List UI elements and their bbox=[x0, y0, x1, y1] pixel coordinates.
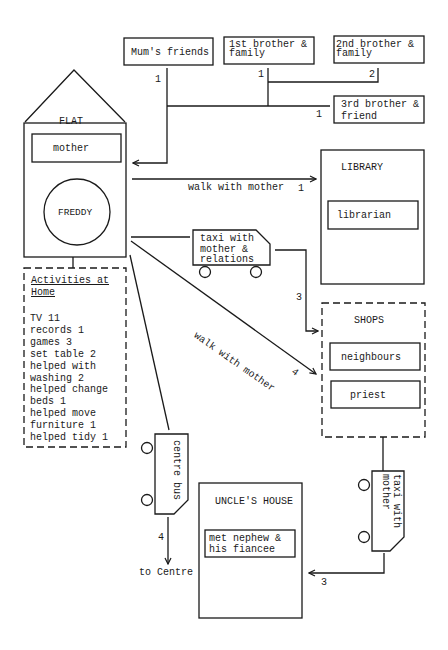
brother3-label: 3rd brother & friend bbox=[341, 99, 419, 123]
taxi1-label: taxi with mother & relations bbox=[200, 234, 254, 266]
nephew-label: met nephew & his fiancee bbox=[209, 533, 281, 555]
activity-item: helped change bbox=[30, 384, 124, 396]
bus-label: centre bus bbox=[171, 440, 182, 500]
shops-title: SHOPS bbox=[354, 315, 384, 326]
activities-title-2: Home bbox=[31, 287, 55, 298]
mums-friends-count: 1 bbox=[155, 74, 161, 85]
activity-item: helped with bbox=[30, 361, 124, 373]
activity-item: records 1 bbox=[30, 325, 124, 337]
flat-title: FLAT bbox=[59, 116, 83, 127]
freddy-label: FREDDY bbox=[58, 207, 92, 218]
uncles-house-title: UNCLE'S HOUSE bbox=[215, 496, 293, 507]
brother1-count: 1 bbox=[258, 69, 264, 80]
neighbours-label: neighbours bbox=[341, 352, 401, 363]
activity-item: beds 1 bbox=[30, 396, 124, 408]
activity-item: furniture 1 bbox=[30, 420, 124, 432]
library-title: LIBRARY bbox=[341, 162, 383, 173]
brother1-label: 1st brother & family bbox=[229, 40, 307, 58]
priest-label: priest bbox=[350, 390, 386, 401]
bus-count: 4 bbox=[158, 532, 164, 543]
taxi2-label: taxi with mother bbox=[380, 474, 402, 528]
brother2-count: 2 bbox=[369, 69, 375, 80]
librarian-label: librarian bbox=[337, 210, 391, 221]
activities-title-1: Activities at bbox=[31, 275, 109, 286]
activity-item: washing 2 bbox=[30, 373, 124, 385]
walk-library-label: walk with mother bbox=[188, 182, 284, 193]
to-centre-label: to Centre bbox=[139, 567, 193, 578]
brother3-count: 1 bbox=[316, 109, 322, 120]
bus-vehicle bbox=[130, 255, 188, 564]
mums-friends-label: Mum's friends bbox=[131, 47, 209, 58]
activity-item: games 3 bbox=[30, 337, 124, 349]
walk-library-count: 1 bbox=[298, 183, 304, 194]
flat-house bbox=[24, 70, 126, 257]
activity-item: helped tidy 1 bbox=[30, 432, 124, 444]
activity-item: helped move bbox=[30, 408, 124, 420]
brother2-label: 2nd brother & family bbox=[336, 40, 414, 58]
activity-item: TV 11 bbox=[30, 313, 124, 325]
activity-item: set table 2 bbox=[30, 349, 124, 361]
mother-label: mother bbox=[53, 143, 89, 154]
taxi-shops-count: 3 bbox=[296, 292, 302, 303]
activities-list: TV 11 records 1 games 3 set table 2 help… bbox=[30, 313, 124, 444]
taxi-uncle-count: 3 bbox=[321, 577, 327, 588]
